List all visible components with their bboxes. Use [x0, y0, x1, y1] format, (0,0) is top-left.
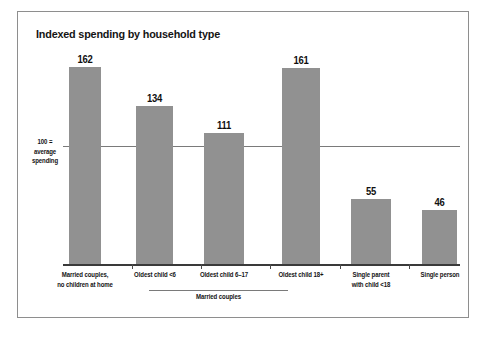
- category-label-line-1: Oldest child 6–17: [187, 270, 261, 280]
- category-label-line-2: no children at home: [42, 280, 128, 290]
- axis-tick: [201, 264, 202, 269]
- category-label-line-1: Single person: [412, 270, 468, 280]
- category-label: Single parent with child <18: [343, 270, 399, 290]
- category-label-line-1: Oldest child 18+: [264, 270, 338, 280]
- category-label-line-1: Oldest child <6: [119, 270, 192, 280]
- category-label: Single person: [412, 270, 468, 280]
- axis-tick: [132, 264, 133, 269]
- bar[interactable]: [351, 199, 391, 264]
- group-label: Married couples: [154, 293, 283, 300]
- bar[interactable]: [69, 67, 101, 264]
- reference-line-100: [63, 146, 460, 147]
- category-label-line-1: Single parent: [343, 270, 399, 280]
- axis-tick: [270, 264, 271, 269]
- bar[interactable]: [136, 106, 173, 264]
- axis-note-line-3: spending: [25, 156, 64, 166]
- axis-tick: [409, 264, 410, 269]
- category-label: Married couples, no children at home: [42, 270, 128, 290]
- axis-note-line-2: average: [25, 147, 64, 157]
- group-underline: [149, 290, 288, 291]
- bar-value-label: 46: [424, 196, 456, 208]
- plot-area: 100 = average spending 162 Married coupl…: [18, 12, 468, 317]
- chart-frame: Indexed spending by household type 100 =…: [17, 11, 469, 318]
- bar-value-label: 111: [206, 119, 242, 131]
- axis-tick: [340, 264, 341, 269]
- bar[interactable]: [422, 210, 457, 264]
- category-label: Oldest child 18+: [264, 270, 338, 280]
- category-label-line-2: with child <18: [343, 280, 399, 290]
- category-label: Oldest child <6: [119, 270, 192, 280]
- axis-reference-note: 100 = average spending: [25, 137, 64, 166]
- axis-note-line-1: 100 =: [25, 137, 64, 147]
- bar-value-label: 134: [138, 92, 171, 104]
- x-axis-baseline: [63, 264, 460, 266]
- category-label: Oldest child 6–17: [187, 270, 261, 280]
- bar-value-label: 55: [353, 185, 389, 197]
- category-label-line-1: Married couples,: [42, 270, 128, 280]
- bar[interactable]: [204, 133, 244, 264]
- bar-value-label: 162: [71, 53, 100, 65]
- bar-value-label: 161: [284, 54, 318, 66]
- bar[interactable]: [282, 68, 320, 264]
